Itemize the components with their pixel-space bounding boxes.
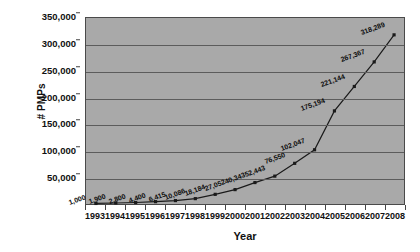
data-point-marker [313,148,316,151]
x-axis-title: Year [85,230,405,242]
x-axis-tick-mark [185,205,186,210]
x-axis-tick-label: 2003 [285,212,305,221]
x-axis-tick-label: 2001 [245,212,265,221]
x-axis-tick-label: 1997 [165,212,185,221]
y-axis-tick-label: 200,000 [42,93,76,103]
x-axis-tick-label: 1994 [105,212,125,221]
x-axis-tick-label: 2005 [325,212,345,221]
y-axis-tick-mark [76,93,80,94]
x-axis-tick-mark [265,205,266,210]
gridline [86,45,404,46]
y-axis-tick-mark [76,39,80,40]
y-axis-tick-label: 250,000 [42,66,76,76]
x-axis-tick-label: 2007 [365,212,385,221]
x-axis-tick-mark [345,205,346,210]
data-point-marker [214,193,217,196]
y-axis-tick-mark [76,66,80,67]
data-point-marker [194,197,197,200]
data-point-marker [253,181,256,184]
x-axis-tick-mark [125,205,126,210]
x-axis-tick-label: 1998 [185,212,205,221]
data-point-marker [373,60,376,63]
x-axis-tick-mark [385,205,386,210]
y-axis-tick-mark [76,120,80,121]
y-axis-tick-label: 350,000 [42,12,76,22]
data-point-marker [174,199,177,202]
y-axis-tick-label: 150,000 [42,120,76,130]
x-axis-tick-label: 2000 [225,212,245,221]
x-axis-tick-labels: 1993199419951996199719981999200020012002… [85,212,405,226]
x-axis-tick-mark [325,205,326,210]
x-axis-tick-label: 2004 [305,212,325,221]
y-axis-tick-labels: 50,000100,000150,000200,000250,000300,00… [22,17,80,205]
gridline [86,152,404,153]
gridline [86,72,404,73]
y-axis-tick-label: 100,000 [42,147,76,157]
x-axis-tick-mark [225,205,226,210]
gridline [86,99,404,100]
x-axis-tick-mark [365,205,366,210]
data-point-marker [392,33,395,36]
x-axis-tick-mark [205,205,206,210]
data-point-marker [233,188,236,191]
y-axis-tick-mark [76,12,80,13]
gridline [86,125,404,126]
x-axis-tick-mark [285,205,286,210]
x-axis-tick-label: 1999 [205,212,225,221]
y-axis-tick-mark [76,147,80,148]
y-axis-tick-mark [76,173,80,174]
x-axis-tick-label: 2008 [385,212,405,221]
x-axis-tick-mark [105,205,106,210]
x-axis-tick-mark [305,205,306,210]
data-point-marker [333,109,336,112]
data-point-marker [293,162,296,165]
x-axis-tick-label: 1995 [125,212,145,221]
x-axis-tick-label: 1993 [85,212,105,221]
x-axis-tick-label: 2002 [265,212,285,221]
x-axis-tick-mark [165,205,166,210]
data-point-marker [273,175,276,178]
x-axis-tick-label: 1996 [145,212,165,221]
x-axis-tick-label: 2006 [345,212,365,221]
gridline [86,179,404,180]
y-axis-tick-label: 300,000 [42,39,76,49]
chart-container: # PMPs 50,000100,000150,000200,000250,00… [0,0,420,252]
y-axis-tick-label: 50,000 [47,173,76,183]
x-axis-tick-mark [245,205,246,210]
x-axis-tick-mark [145,205,146,210]
x-axis-tick-mark [405,205,406,210]
x-axis-tick-mark [85,205,86,210]
data-point-marker [353,85,356,88]
